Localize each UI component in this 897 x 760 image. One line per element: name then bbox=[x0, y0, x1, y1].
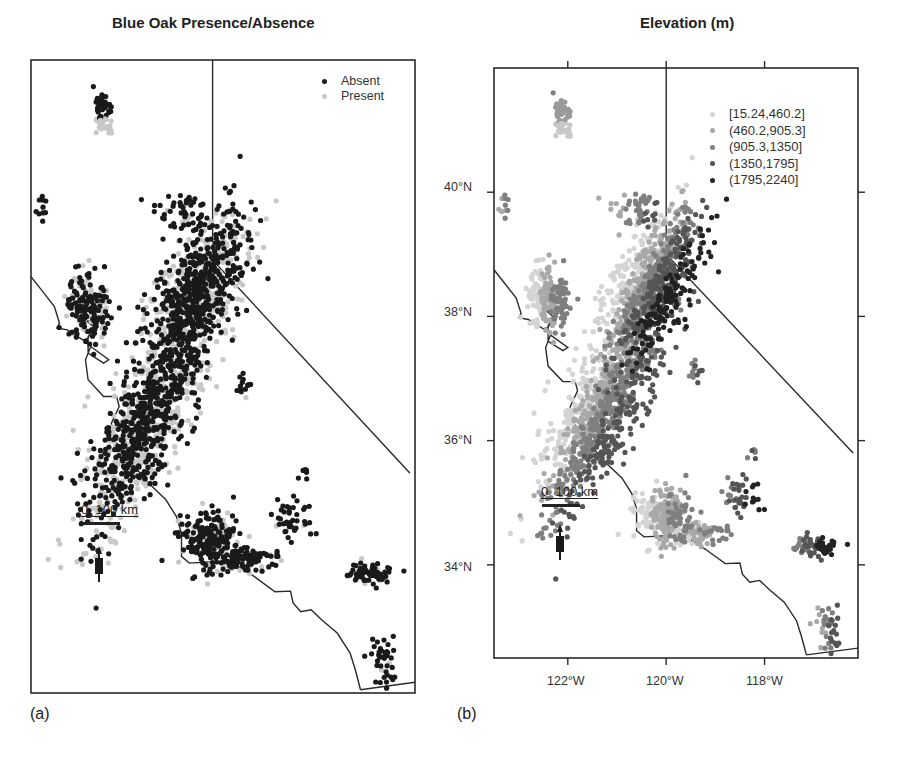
panel-frame bbox=[31, 60, 415, 693]
elev-dot-icon bbox=[710, 145, 715, 150]
y-tick-40n: 40°N bbox=[444, 180, 472, 194]
scale-bar-line bbox=[82, 522, 120, 525]
legend-item-present: Present bbox=[322, 89, 384, 104]
elev-dot-icon bbox=[710, 128, 715, 133]
legend-label: [15.24,460.2] bbox=[729, 106, 805, 123]
x-tick-122w: 122°W bbox=[547, 674, 585, 688]
legend-label: (905.3,1350] bbox=[729, 139, 802, 156]
legend-label: Absent bbox=[341, 74, 380, 89]
present-dot-icon bbox=[322, 94, 327, 99]
panel-b-legend: [15.24,460.2] (460.2,905.3] (905.3,1350]… bbox=[710, 106, 806, 189]
x-tick-118w: 118°W bbox=[746, 674, 783, 688]
legend-label: Present bbox=[341, 89, 384, 104]
panel-b-label: (b) bbox=[457, 705, 477, 723]
elev-dot-icon bbox=[710, 178, 715, 183]
panel-a-legend: Absent Present bbox=[322, 74, 384, 104]
elev-dot-icon bbox=[710, 112, 715, 117]
panel-b-scale-bar: 0 100 km bbox=[541, 484, 598, 499]
legend-item-elev-5: (1795,2240] bbox=[710, 172, 806, 189]
y-tick-38n: 38°N bbox=[444, 305, 472, 319]
legend-label: (1795,2240] bbox=[729, 172, 798, 189]
panel-a-scale-bar: 0 100 km bbox=[81, 502, 138, 517]
panel-a-map bbox=[31, 60, 415, 693]
legend-item-absent: Absent bbox=[322, 74, 384, 89]
y-tick-36n: 36°N bbox=[444, 433, 472, 447]
legend-item-elev-2: (460.2,905.3] bbox=[710, 123, 806, 140]
legend-item-elev-3: (905.3,1350] bbox=[710, 139, 806, 156]
scale-bar-label: 0 100 km bbox=[541, 484, 598, 499]
panel-b-map bbox=[487, 61, 865, 665]
elev-dot-icon bbox=[710, 161, 715, 166]
panel-a-label: (a) bbox=[30, 705, 50, 723]
legend-label: (460.2,905.3] bbox=[729, 123, 806, 140]
absent-dot-icon bbox=[322, 79, 327, 84]
scale-bar-line bbox=[542, 504, 580, 507]
scale-bar-label: 0 100 km bbox=[81, 502, 138, 517]
x-tick-120w: 120°W bbox=[646, 674, 684, 688]
legend-label: (1350,1795] bbox=[729, 156, 798, 173]
legend-item-elev-1: [15.24,460.2] bbox=[710, 106, 806, 123]
y-tick-34n: 34°N bbox=[444, 560, 472, 574]
legend-item-elev-4: (1350,1795] bbox=[710, 156, 806, 173]
